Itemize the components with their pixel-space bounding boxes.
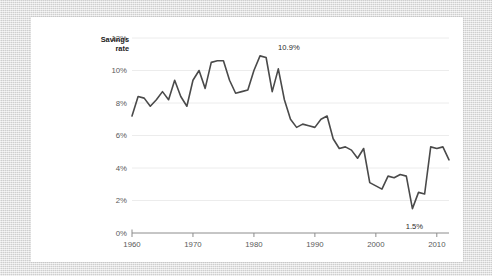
y-tick-label-8%: 8% <box>116 99 127 108</box>
y-axis-title-line2: rate <box>115 44 129 53</box>
x-tick-label-2000: 2000 <box>367 240 385 249</box>
x-tick-label-1980: 1980 <box>245 240 263 249</box>
y-tick-label-10%: 10% <box>111 66 127 75</box>
chart-card: 0%2%4%6%8%10%12% Savings rate 1960197019… <box>31 17 463 262</box>
x-axis-ticks-group <box>132 233 437 237</box>
y-tick-label-2%: 2% <box>116 196 127 205</box>
data-annotations-group: 10.9%1.5% <box>278 43 423 231</box>
y-axis-title-line1: Savings <box>101 35 129 44</box>
savings-rate-line-chart: 0%2%4%6%8%10%12% Savings rate 1960197019… <box>31 17 463 262</box>
x-tick-label-1970: 1970 <box>184 240 202 249</box>
y-axis-title: Savings rate <box>101 35 129 53</box>
x-tick-label-1960: 1960 <box>123 240 141 249</box>
y-axis-tick-labels: 0%2%4%6%8%10%12% <box>111 34 127 238</box>
savings-rate-series-line <box>132 56 449 209</box>
y-tick-label-4%: 4% <box>116 164 127 173</box>
x-axis-tick-labels: 196019701980199020002010 <box>123 240 446 249</box>
peak-annotation: 10.9% <box>278 43 300 52</box>
x-tick-label-2010: 2010 <box>428 240 446 249</box>
y-tick-label-0%: 0% <box>116 229 127 238</box>
y-tick-label-6%: 6% <box>116 131 127 140</box>
x-axis-line <box>132 230 449 234</box>
trough-annotation: 1.5% <box>406 222 424 231</box>
x-tick-label-1990: 1990 <box>306 240 324 249</box>
